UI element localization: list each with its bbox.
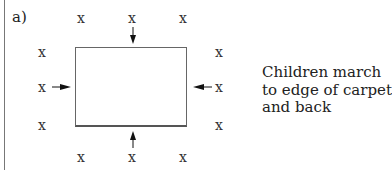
arrow-right-icon [52,82,72,92]
child-marker-right-1: x [214,45,224,59]
caption-line-2: to edge of carpet [262,82,392,100]
child-marker-top-2: x [127,11,137,25]
caption-line-3: and back [262,99,392,117]
child-marker-left-1: x [37,45,47,59]
carpet-rectangle [75,47,187,127]
child-marker-bottom-2: x [127,150,137,164]
child-marker-right-3: x [214,118,224,132]
caption: Children march to edge of carpet and bac… [262,64,392,117]
arrow-up-icon [128,130,138,148]
child-marker-left-3: x [37,118,47,132]
left-border-line [4,0,5,170]
panel-label: a) [12,8,27,26]
caption-line-1: Children march [262,64,392,82]
child-marker-bottom-3: x [178,150,188,164]
arrow-left-icon [192,82,212,92]
child-marker-left-2: x [37,80,47,94]
child-marker-bottom-1: x [76,150,86,164]
child-marker-top-3: x [178,11,188,25]
arrow-down-icon [128,27,138,45]
child-marker-top-1: x [76,11,86,25]
child-marker-right-2: x [214,80,224,94]
